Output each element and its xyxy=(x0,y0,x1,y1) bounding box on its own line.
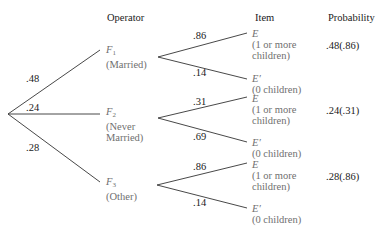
prob-f1-eprime: .14 xyxy=(193,67,206,78)
item-f2-eprime: E′ (0 children) xyxy=(252,137,301,159)
header-probability: Probability xyxy=(328,12,375,23)
prob-f2-e: .31 xyxy=(193,96,206,107)
prob-f3-eprime: .14 xyxy=(193,197,206,208)
prob-f3: .28 xyxy=(26,142,39,153)
item-f1-e: E (1 or more children) xyxy=(252,28,296,61)
result-f1: .48(.86) xyxy=(326,40,359,51)
item-f3-eprime: E′ (0 children) xyxy=(252,203,301,225)
header-operator: Operator xyxy=(107,12,144,23)
prob-f2-eprime: .69 xyxy=(193,131,206,142)
header-item: Item xyxy=(255,12,274,23)
item-f1-eprime: E′ (0 children) xyxy=(252,73,301,95)
branch-root-f3 xyxy=(8,114,100,182)
result-f3: .28(.86) xyxy=(326,171,359,182)
result-f2: .24(.31) xyxy=(326,105,359,116)
tree-lines xyxy=(0,0,377,231)
item-f3-e: E (1 or more children) xyxy=(252,159,296,192)
branch-root-f1 xyxy=(8,50,100,114)
node-f2: F2 (Never Married) xyxy=(106,106,143,143)
prob-f2: .24 xyxy=(26,102,39,113)
prob-f1: .48 xyxy=(26,73,39,84)
prob-f3-e: .86 xyxy=(193,161,206,172)
node-f3: F3 (Other) xyxy=(106,176,137,202)
item-f2-e: E (1 or more children) xyxy=(252,93,296,126)
node-f1: F1 (Married) xyxy=(106,44,147,70)
prob-f1-e: .86 xyxy=(193,30,206,41)
